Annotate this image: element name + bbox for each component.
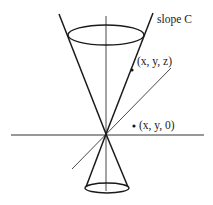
point-in-plane-dot	[132, 124, 135, 127]
upper-cone-left-edge	[59, 14, 106, 134]
slope-label: slope C	[157, 14, 192, 26]
upper-cone-right-edge	[106, 13, 153, 134]
lower-cone-rim	[85, 183, 129, 193]
point-on-cone-dot	[130, 68, 133, 71]
lower-cone-right-edge	[106, 134, 128, 187]
double-cone-diagram	[0, 0, 213, 205]
lower-cone-left-edge	[86, 134, 106, 187]
point-on-cone-label: (x, y, z)	[137, 56, 172, 68]
point-in-plane-label: (x, y, 0)	[139, 120, 175, 132]
